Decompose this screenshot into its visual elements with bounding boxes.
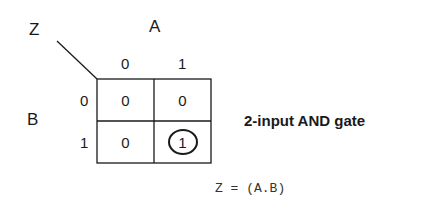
kmap-cell-r1c1: 1	[154, 121, 211, 163]
row-variable-label: B	[27, 111, 38, 128]
boolean-expression: Z = (A.B)	[215, 181, 285, 196]
col-variable-label: A	[149, 18, 160, 35]
diagonal-divider	[57, 41, 97, 79]
kmap-cell-r0c1: 0	[154, 79, 211, 121]
row-header-0: 0	[80, 93, 88, 108]
kmap-cell-value: 1	[178, 134, 186, 151]
diagram-title: 2-input AND gate	[244, 112, 365, 129]
grouping-circle: 1	[168, 129, 198, 155]
kmap-cell-r0c0: 0	[97, 79, 154, 121]
row-header-1: 1	[80, 135, 88, 150]
col-header-1: 1	[178, 56, 186, 71]
col-header-0: 0	[121, 56, 129, 71]
kmap-lines	[0, 0, 436, 211]
output-label: Z	[29, 21, 39, 38]
kmap-cell-r1c0: 0	[97, 121, 154, 163]
